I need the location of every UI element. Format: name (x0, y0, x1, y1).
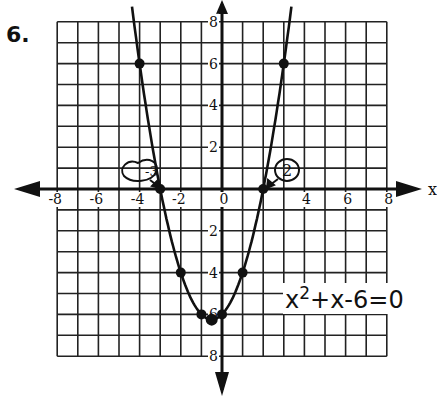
x-axis-letter: x (428, 180, 437, 199)
root-right-label: 2 (282, 161, 292, 180)
y-axis-up-arrow-icon (216, 0, 228, 14)
equation-label: x2+x-6=0 (283, 283, 406, 314)
y-tick-label: 8 (209, 14, 218, 30)
equation-rest: +x-6=0 (310, 286, 404, 314)
equation-base: x (285, 286, 299, 314)
data-point-dot (279, 59, 289, 69)
x-tick-label: 4 (302, 191, 311, 207)
y-axis-down-arrow-icon (215, 372, 229, 396)
parabola-graph: x -8-6-4-2046886422468 -32 (0, 0, 437, 401)
y-tick-label: 4 (209, 97, 218, 113)
x-tick-label: 8 (384, 191, 393, 207)
y-tick-label: 6 (209, 56, 218, 72)
x-tick-label: 6 (343, 191, 352, 207)
x-axis-right-arrow-icon (396, 181, 422, 197)
equation-exponent: 2 (299, 283, 310, 303)
data-point-dot (196, 309, 206, 319)
x-tick-label: -2 (172, 191, 186, 207)
arrow-head-right-icon (267, 180, 274, 188)
data-point-dot (176, 268, 186, 278)
x-tick-label: -8 (48, 191, 62, 207)
data-point-dot (206, 314, 218, 326)
y-tick-label: 4 (209, 265, 218, 281)
x-tick-label: -4 (131, 191, 145, 207)
y-tick-label: 2 (209, 223, 218, 239)
root-left-label: -3 (145, 164, 158, 179)
data-point-dot (238, 268, 248, 278)
data-point-dot (135, 59, 145, 69)
x-tick-label: 0 (220, 191, 229, 207)
y-tick-label: 2 (209, 139, 218, 155)
x-tick-label: -6 (90, 191, 104, 207)
y-tick-label: 8 (209, 348, 218, 364)
x-axis-left-arrow-icon (14, 181, 40, 197)
root-annotations: -32 (122, 159, 299, 188)
data-point-dot (217, 309, 227, 319)
